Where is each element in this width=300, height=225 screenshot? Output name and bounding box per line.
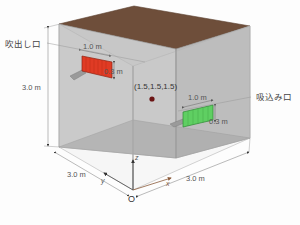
axis-x-label: x (166, 180, 170, 187)
axis-origin-label: O (128, 194, 135, 204)
supply-height-label: 0.3 m (104, 67, 123, 76)
width-ext-right (249, 138, 250, 152)
room-width-label: 3.0 m (186, 174, 205, 183)
supply-width-label: 1.0 m (83, 42, 102, 51)
height-ext-bottom (44, 146, 60, 147)
return-width-label: 1.0 m (188, 93, 207, 102)
return-height-label: 0.3 m (209, 117, 228, 126)
room-depth-label: 3.0 m (67, 170, 86, 179)
axis-y-label: y (101, 177, 105, 184)
center-point-marker (149, 96, 154, 101)
return-inlet-label: 吸込み口 (256, 90, 292, 102)
axis-z-label: z (135, 154, 139, 161)
figure-canvas: 吹出し口 吸込み口 1.0 m 0.3 m 1.0 m 0.3 m (1.5,1… (0, 0, 300, 225)
room-3d-scene (0, 0, 300, 225)
supply-outlet-label: 吹出し口 (5, 37, 41, 49)
room-height-label: 3.0 m (22, 83, 41, 92)
center-point-coordinate-label: (1.5,1.5,1.5) (134, 82, 177, 91)
height-ext-top (44, 24, 60, 28)
